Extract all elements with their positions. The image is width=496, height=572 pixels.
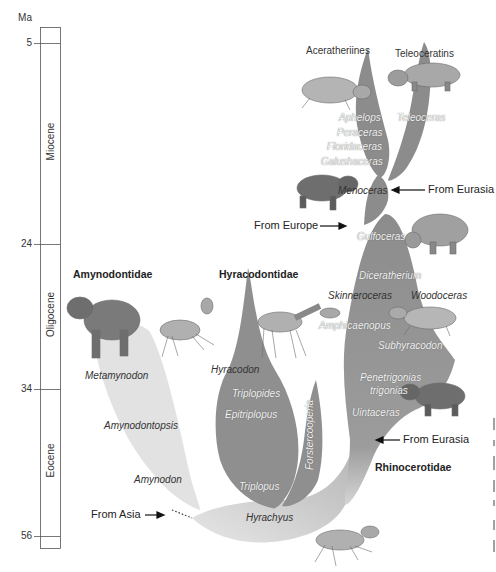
genus-hyrachyus: Hyrachyus bbox=[246, 512, 293, 523]
genus-woodoceras: Woodoceras bbox=[411, 290, 467, 301]
genus-peraceras: Peraceras bbox=[337, 127, 383, 138]
time-tick-56: 56 bbox=[2, 530, 32, 541]
migration-from-eurasia-top: From Eurasia bbox=[428, 183, 494, 195]
genus-subhyracodon: Subhyracodon bbox=[378, 340, 443, 351]
genus-metamynodon: Metamynodon bbox=[85, 370, 148, 381]
time-tick-24: 24 bbox=[2, 238, 32, 249]
diceratherium-illustration bbox=[405, 214, 468, 254]
hyrachyus-illustration bbox=[315, 526, 379, 566]
epoch-oligocene: Oligocene bbox=[45, 287, 56, 343]
hyracodon-illustration bbox=[160, 298, 214, 357]
genus-triplopides: Triplopides bbox=[232, 388, 280, 399]
genus-menoceras: Menoceras bbox=[338, 185, 387, 196]
time-tick-34: 34 bbox=[2, 383, 32, 394]
migration-from-asia: From Asia bbox=[91, 508, 141, 520]
migration-from-eurasia-bottom: From Eurasia bbox=[403, 433, 469, 445]
genus-diceratherium: Diceratherium bbox=[359, 270, 421, 281]
genus-trigonias: trigonias bbox=[370, 385, 408, 396]
genus-forstercooperia: Forstercooperia bbox=[304, 400, 315, 470]
migration-from-europe: From Europe bbox=[254, 219, 318, 231]
genus-amynodontopsis: Amynodontopsis bbox=[104, 420, 178, 431]
genus-gulfoceras: Gulfoceras bbox=[357, 231, 405, 242]
genus-triplopus: Triplopus bbox=[239, 481, 279, 492]
genus-amphicaenopus: Amphicaenopus bbox=[319, 320, 391, 331]
family-amynodontidae: Amynodontidae bbox=[73, 268, 152, 280]
genus-galushaceras: Galushaceras bbox=[321, 156, 383, 167]
family-hyracodontidae: Hyracodontidae bbox=[219, 268, 298, 280]
epoch-miocene: Miocene bbox=[45, 114, 56, 170]
time-tick-5: 5 bbox=[2, 37, 32, 48]
genus-aphelops: Aphelops bbox=[339, 112, 381, 123]
clade-aceratheriines: Aceratheriines bbox=[306, 45, 370, 56]
family-rhinocerotidae: Rhinocerotidae bbox=[375, 461, 451, 473]
genus-floridaceras: Floridaceras bbox=[327, 141, 382, 152]
teleoceras-illustration bbox=[388, 63, 460, 91]
genus-amynodon: Amynodon bbox=[134, 474, 182, 485]
dotted-connection bbox=[172, 510, 192, 518]
clade-teleoceratins: Teleoceratins bbox=[395, 48, 454, 59]
genus-penetrigonias: Penetrigonias bbox=[360, 372, 421, 383]
genus-teleoceras: Teleoceras bbox=[397, 112, 446, 123]
genus-epitriplopus: Epitriplopus bbox=[225, 409, 277, 420]
genus-uintaceras: Uintaceras bbox=[352, 407, 400, 418]
triplopus-horse-illustration bbox=[258, 306, 340, 358]
epoch-eocene: Eocene bbox=[45, 433, 56, 489]
units-label: Ma bbox=[2, 12, 32, 23]
genus-hyracodon: Hyracodon bbox=[211, 364, 259, 375]
genus-skinneroceras: Skinneroceras bbox=[328, 290, 392, 301]
